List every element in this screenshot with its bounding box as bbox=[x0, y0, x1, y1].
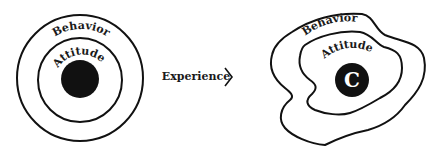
left-diagram: Behavior Attitude bbox=[17, 15, 143, 141]
behavior-label: Behavior bbox=[50, 19, 112, 39]
experience-diagram: Behavior Attitude Experience C Behavior … bbox=[0, 0, 439, 155]
core-dot bbox=[61, 60, 99, 98]
experience-label: Experience bbox=[162, 70, 230, 83]
right-diagram: C Behavior Attitude bbox=[271, 11, 425, 145]
experience-arrow: Experience bbox=[162, 68, 232, 86]
attitude-label: Attitude bbox=[317, 38, 374, 62]
core-label: C bbox=[344, 68, 360, 92]
